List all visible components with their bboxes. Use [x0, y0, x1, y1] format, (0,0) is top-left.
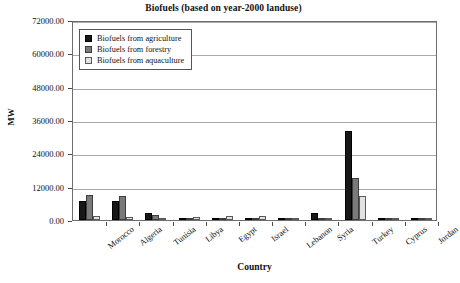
bar [359, 196, 366, 220]
bar [126, 217, 133, 220]
y-axis-tick-labels: 0.0012000.0024000.0036000.0048000.006000… [0, 21, 68, 221]
y-axis-tick-label: 48000.00 [32, 83, 64, 93]
bar [79, 201, 86, 220]
bar [411, 218, 418, 220]
x-axis-tick-label: Lebanon [305, 224, 335, 250]
bar-group [206, 22, 239, 220]
bar [385, 218, 392, 220]
legend-swatch-icon [85, 57, 92, 64]
bar-group [272, 22, 305, 220]
x-axis-tick-label: Egypt [236, 224, 258, 244]
bar [245, 218, 252, 220]
legend-item-label: Biofuels from agriculture [97, 34, 181, 43]
bar [292, 218, 299, 220]
bar [212, 218, 219, 220]
legend-item: Biofuels from aquaculture [85, 55, 184, 66]
bar [285, 218, 292, 220]
x-axis-tick-label: Libya [203, 224, 225, 244]
y-axis-tick-label: 60000.00 [32, 49, 64, 59]
bar [93, 216, 100, 220]
bar [378, 218, 385, 220]
y-axis-tick-label: 72000.00 [32, 16, 64, 26]
bar [345, 131, 352, 220]
bar [278, 218, 285, 220]
bar-group [239, 22, 272, 220]
bar [145, 213, 152, 220]
x-axis-tick-labels: MoroccoAlgeriaTunisiaLibyaEgyptIsraelLeb… [0, 221, 447, 263]
bar [226, 216, 233, 220]
bar [318, 218, 325, 220]
bar [325, 218, 332, 220]
legend-swatch-icon [85, 35, 92, 42]
chart-legend: Biofuels from agricultureBiofuels from f… [79, 29, 192, 70]
bar [152, 215, 159, 220]
bar-group [338, 22, 371, 220]
y-axis-tick-label: 36000.00 [32, 116, 64, 126]
bar [252, 218, 259, 220]
x-axis-tick-label: Morocco [106, 224, 136, 251]
y-axis-tick-label: 24000.00 [32, 149, 64, 159]
bar [112, 201, 119, 220]
bar [86, 195, 93, 220]
bar [311, 213, 318, 221]
bar [186, 218, 193, 220]
bar [259, 216, 266, 220]
bar [219, 218, 226, 220]
x-axis-tick-label: Cyprus [403, 224, 429, 247]
y-axis-tick-label: 12000.00 [32, 183, 64, 193]
legend-item-label: Biofuels from forestry [97, 45, 171, 54]
bar-group [305, 22, 338, 220]
legend-item: Biofuels from forestry [85, 44, 184, 55]
chart-title: Biofuels (based on year-2000 landuse) [0, 3, 447, 13]
bar [159, 218, 166, 220]
bar [193, 217, 200, 220]
bar-group [405, 22, 438, 220]
bar [352, 178, 359, 220]
x-axis-tick-label: Algeria [138, 224, 164, 248]
bar [119, 196, 126, 220]
legend-swatch-icon [85, 46, 92, 53]
bar [392, 218, 399, 220]
x-axis-tick-label: Jordan [436, 224, 460, 246]
legend-item: Biofuels from agriculture [85, 33, 184, 44]
x-axis-tick-label: Turkey [370, 224, 395, 247]
x-axis-tick-label: Syria [335, 224, 355, 243]
bar-group [372, 22, 405, 220]
bar [179, 218, 186, 221]
legend-item-label: Biofuels from aquaculture [97, 56, 184, 65]
x-axis-tick-label: Tunisia [171, 224, 197, 247]
bar [418, 218, 425, 220]
bar [425, 218, 432, 220]
x-axis-title: Country [72, 262, 437, 272]
x-axis-tick-label: Israel [269, 224, 290, 244]
